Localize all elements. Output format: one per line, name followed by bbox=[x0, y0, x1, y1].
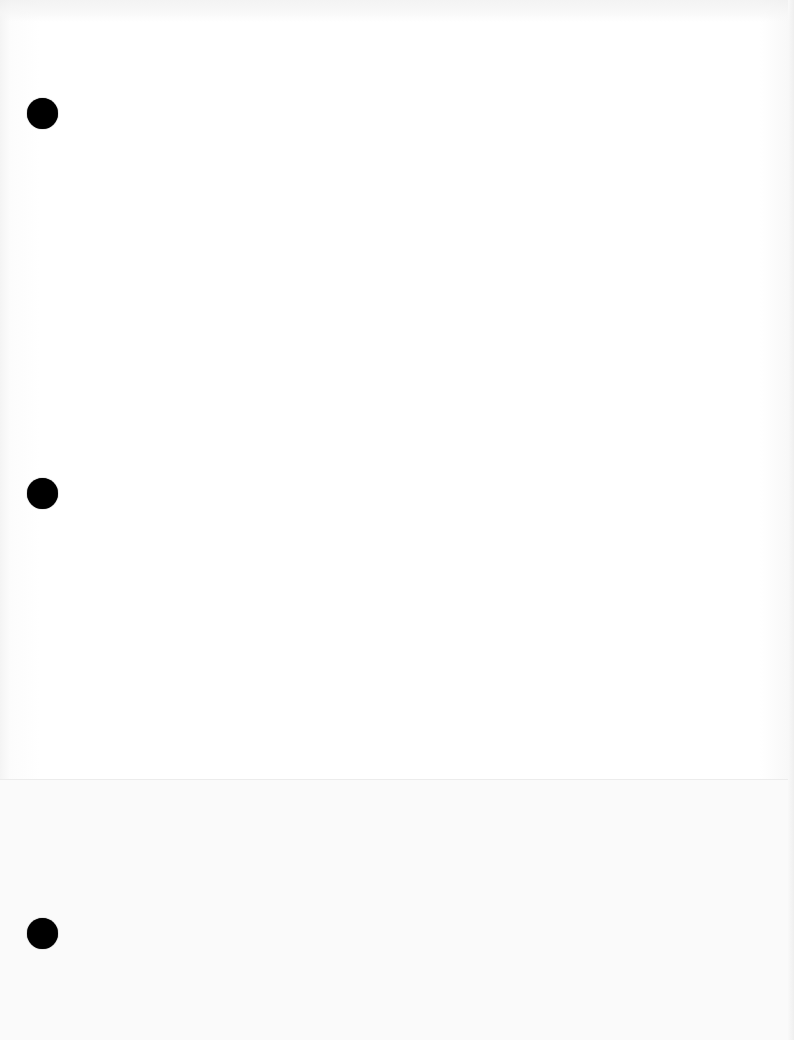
scan-bleed-through bbox=[0, 0, 794, 22]
lower-page-section bbox=[0, 780, 794, 1040]
fold-line bbox=[0, 779, 794, 780]
punch-hole-middle bbox=[27, 478, 58, 509]
punch-hole-bottom bbox=[27, 918, 58, 949]
page-edge bbox=[788, 0, 794, 1040]
punch-hole-top bbox=[27, 98, 58, 129]
blank-page bbox=[0, 0, 794, 1040]
